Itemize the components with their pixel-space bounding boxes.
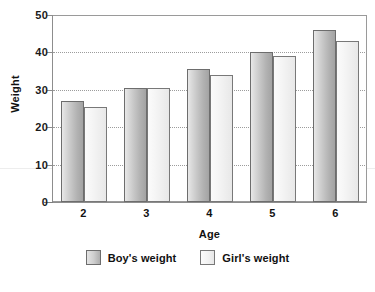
bar-boy-age-6[interactable] [313,30,336,202]
bar-boy-age-3[interactable] [124,88,147,202]
legend-swatch-boy [86,250,101,265]
bar-chart: 01020304050 23456 Weight Age Boy's weigh… [0,0,375,292]
bar-group [61,15,107,202]
legend-item-boy[interactable]: Boy's weight [86,250,177,265]
bar-girl-age-5[interactable] [273,56,296,202]
bar-girl-age-6[interactable] [336,41,359,202]
x-tick-label-3: 3 [143,207,149,219]
x-tick-label-2: 2 [80,207,86,219]
bar-group [313,15,359,202]
x-axis-line [52,202,367,203]
bars-layer [52,15,367,202]
chart-legend: Boy's weightGirl's weight [0,250,375,265]
legend-label: Girl's weight [222,252,289,264]
x-tick-label-4: 4 [206,207,212,219]
bar-girl-age-2[interactable] [84,107,107,202]
bar-boy-age-5[interactable] [250,52,273,202]
y-tick-label-40: 40 [4,46,48,58]
bar-girl-age-3[interactable] [147,88,170,202]
bar-group [250,15,296,202]
x-axis-title: Age [52,228,367,240]
y-tick-label-layer: 01020304050 [0,0,48,292]
bar-boy-age-4[interactable] [187,69,210,202]
y-tick-label-10: 10 [4,159,48,171]
bar-group [124,15,170,202]
x-tick-label-6: 6 [332,207,338,219]
y-tick-label-50: 50 [4,9,48,21]
y-tick-label-0: 0 [4,196,48,208]
bar-boy-age-2[interactable] [61,101,84,202]
legend-item-girl[interactable]: Girl's weight [200,250,289,265]
x-tick-label-5: 5 [269,207,275,219]
bar-girl-age-4[interactable] [210,75,233,202]
legend-swatch-girl [200,250,215,265]
chart-title-remnant [60,0,340,5]
legend-label: Boy's weight [108,252,177,264]
bar-group [187,15,233,202]
y-axis-title: Weight [9,59,21,129]
